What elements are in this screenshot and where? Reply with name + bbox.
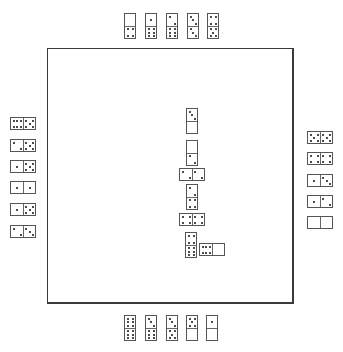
pip (329, 183, 331, 185)
pip (194, 162, 196, 164)
domino-2-6[interactable] (166, 13, 178, 39)
pip (322, 198, 324, 200)
pip (317, 134, 319, 136)
domino-1-5[interactable] (10, 203, 36, 216)
domino-1-5[interactable] (10, 160, 36, 173)
pip (190, 16, 192, 18)
pip (32, 126, 34, 128)
pip (25, 120, 27, 122)
pip (150, 19, 152, 21)
domino-half-0 (213, 244, 225, 255)
domino-1-2[interactable] (307, 195, 333, 208)
domino-4-4 (179, 213, 205, 226)
pip (195, 23, 197, 25)
game-board (47, 48, 294, 304)
pip (169, 330, 171, 332)
domino-half-1 (11, 204, 24, 215)
pip (194, 206, 196, 208)
domino-half-4 (193, 214, 205, 225)
domino-3-6[interactable] (145, 315, 157, 341)
domino-half-4 (125, 27, 135, 39)
domino-1-0[interactable] (206, 315, 218, 341)
pip (322, 134, 324, 136)
domino-half-4 (187, 198, 197, 210)
pip (132, 28, 134, 30)
domino-half-0 (125, 14, 135, 27)
domino-half-4 (321, 153, 333, 164)
domino-half-0 (207, 329, 217, 341)
pip (148, 32, 150, 34)
domino-3-5[interactable] (166, 315, 178, 341)
domino-half-5 (321, 132, 333, 143)
pip (153, 28, 155, 30)
domino-half-0 (187, 329, 197, 341)
pip (150, 321, 152, 323)
pip (201, 222, 203, 224)
domino-2-5[interactable] (10, 139, 36, 152)
pip (193, 242, 195, 244)
domino-half-3 (146, 316, 156, 329)
domino-half-4 (180, 214, 193, 225)
domino-half-1 (11, 161, 24, 172)
pip (212, 32, 214, 34)
pip (20, 234, 22, 236)
domino-4-5[interactable] (207, 13, 219, 39)
pip (32, 148, 34, 150)
pip (182, 171, 184, 173)
pip (171, 321, 173, 323)
pip (169, 337, 171, 339)
pip (194, 118, 196, 120)
domino-1-6[interactable] (145, 13, 157, 39)
pip (127, 28, 129, 30)
domino-half-6 (146, 329, 156, 341)
domino-5-0[interactable] (186, 315, 198, 341)
pip (132, 325, 134, 327)
pip (189, 325, 191, 327)
pip (20, 126, 22, 128)
domino-6-6[interactable] (124, 315, 136, 341)
domino-6-5[interactable] (10, 117, 36, 130)
pip (188, 254, 190, 256)
domino-half-3 (167, 316, 177, 329)
pip (13, 120, 15, 122)
pip (148, 35, 150, 37)
pip (32, 169, 34, 171)
pip (210, 16, 212, 18)
domino-half-4 (308, 153, 321, 164)
domino-half-0 (187, 141, 197, 154)
pip (310, 161, 312, 163)
pip (189, 206, 191, 208)
domino-half-6 (11, 118, 24, 129)
domino-1-3[interactable] (307, 174, 333, 187)
pip (174, 23, 176, 25)
domino-half-6 (200, 244, 213, 255)
pip (322, 177, 324, 179)
domino-3-3[interactable] (187, 13, 199, 39)
domino-half-0 (321, 217, 333, 228)
pip (13, 228, 15, 230)
pip (25, 212, 27, 214)
domino-2-3[interactable] (10, 225, 36, 238)
pip (188, 242, 190, 244)
pip (326, 137, 328, 139)
domino-5-5[interactable] (307, 131, 333, 144)
pip (132, 337, 134, 339)
domino-4-4[interactable] (307, 152, 333, 165)
domino-1-1[interactable] (10, 181, 36, 194)
pip (215, 16, 217, 18)
pip (317, 140, 319, 142)
domino-0-0[interactable] (307, 216, 333, 229)
pip (153, 334, 155, 336)
pip (317, 155, 319, 157)
pip (32, 163, 34, 165)
pip (310, 140, 312, 142)
domino-half-2 (11, 140, 24, 151)
pip (148, 337, 150, 339)
domino-half-6 (125, 329, 135, 341)
pip (329, 204, 331, 206)
pip (189, 216, 191, 218)
pip (32, 212, 34, 214)
pip (127, 35, 129, 37)
domino-3-0 (186, 108, 198, 134)
domino-0-4[interactable] (124, 13, 136, 39)
